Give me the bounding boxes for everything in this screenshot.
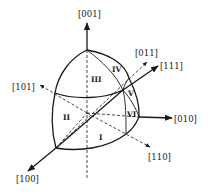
axis-110 [87, 113, 150, 147]
axis-111 [123, 66, 158, 90]
octant-diagram: [001] [011] [111] [101] [010] [110] [100… [0, 0, 211, 195]
region-III: III [91, 75, 102, 84]
label-111: [111] [160, 61, 183, 71]
axis-100 [28, 148, 56, 171]
arc-v-vi [123, 90, 126, 134]
region-IV: IV [112, 65, 122, 74]
region-I: I [99, 133, 103, 142]
arc-left [52, 93, 56, 148]
label-100: [100] [16, 174, 39, 184]
region-V: V [127, 89, 134, 98]
axis-101 [40, 85, 87, 113]
label-010: [010] [174, 114, 197, 124]
arc-top-left [55, 50, 87, 93]
axis-100-hidden [56, 113, 87, 148]
arc-bottom-right [126, 117, 139, 134]
label-001: [001] [78, 9, 101, 19]
axis-010 [139, 117, 172, 118]
label-101: [101] [12, 82, 35, 92]
label-110: [110] [148, 152, 171, 162]
region-VI: VI [126, 110, 137, 119]
region-II: II [63, 113, 71, 122]
arc-equator [55, 90, 123, 98]
label-011: [011] [135, 48, 158, 58]
